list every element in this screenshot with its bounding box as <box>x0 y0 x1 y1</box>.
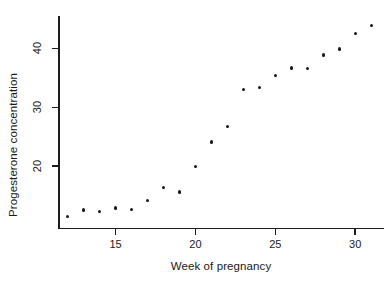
x-tick-mark <box>195 228 197 235</box>
x-tick-mark <box>275 228 277 235</box>
y-tick-label: 20 <box>31 155 43 177</box>
data-point <box>322 53 325 56</box>
x-tick-label: 30 <box>343 238 367 250</box>
data-point <box>258 86 261 89</box>
data-point <box>338 47 341 50</box>
x-axis-line <box>58 228 384 230</box>
plot-area: 20304015202530 <box>0 0 392 290</box>
x-tick-label: 20 <box>183 238 207 250</box>
data-point <box>354 32 357 35</box>
y-tick-label: 40 <box>31 37 43 59</box>
x-tick-label: 25 <box>263 238 287 250</box>
data-point <box>66 215 69 218</box>
y-tick-label: 30 <box>31 96 43 118</box>
y-tick-mark <box>52 107 59 109</box>
data-point <box>146 199 149 202</box>
data-point <box>370 24 373 27</box>
data-point <box>178 190 181 193</box>
y-tick-mark <box>52 48 59 50</box>
data-point <box>274 74 277 77</box>
x-tick-mark <box>354 228 356 235</box>
data-point <box>226 125 229 128</box>
x-axis-title: Week of pregnancy <box>58 260 384 272</box>
data-point <box>98 210 101 213</box>
scatter-plot-figure: Progesterone concentration 2030401520253… <box>0 0 392 290</box>
data-point <box>290 66 293 69</box>
data-point <box>306 67 309 70</box>
x-tick-label: 15 <box>104 238 128 250</box>
x-tick-mark <box>115 228 117 235</box>
data-point <box>210 140 213 143</box>
data-point <box>194 165 197 168</box>
data-point <box>162 186 165 189</box>
data-point <box>114 206 117 209</box>
data-point <box>82 208 85 211</box>
y-tick-mark <box>52 165 59 167</box>
data-point <box>242 88 245 91</box>
data-point <box>130 208 133 211</box>
